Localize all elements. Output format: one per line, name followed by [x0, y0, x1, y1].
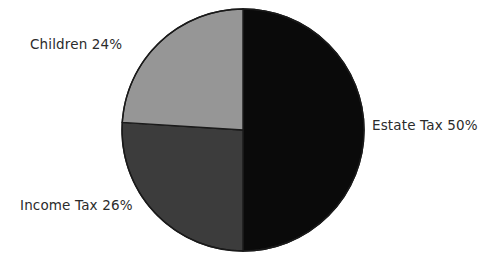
pie-chart-figure: Children 24% Income Tax 26% Estate Tax 5…: [0, 0, 493, 262]
pie-slice-estate-tax[interactable]: [243, 9, 364, 251]
pie-label-children: Children 24%: [30, 38, 122, 52]
pie-slice-children[interactable]: [122, 9, 243, 130]
pie-slice-income-tax[interactable]: [122, 122, 243, 251]
pie-label-estate-tax: Estate Tax 50%: [372, 119, 478, 133]
pie-label-income-tax: Income Tax 26%: [20, 199, 133, 213]
